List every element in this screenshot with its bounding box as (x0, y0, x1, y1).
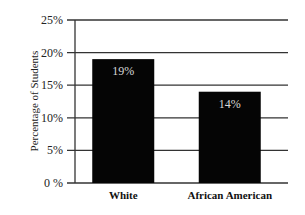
data-label: 19% (112, 64, 134, 78)
y-tick-label: 5% (47, 143, 63, 157)
y-tick-label: 20% (41, 46, 63, 60)
bar-chart: 19%14% 0 %5%10%15%20%25% WhiteAfrican Am… (0, 0, 305, 215)
y-tick-label: 0 % (44, 176, 63, 190)
y-axis-title: Percentage of Students (28, 51, 40, 152)
bars: 19%14% (92, 59, 261, 183)
x-category-labels: WhiteAfrican American (109, 189, 272, 201)
y-tick-labels: 0 %5%10%15%20%25% (41, 13, 63, 190)
x-category-label: African American (187, 189, 272, 201)
x-category-label: White (109, 189, 138, 201)
y-tick-label: 10% (41, 111, 63, 125)
data-label: 14% (219, 97, 241, 111)
y-tick-label: 15% (41, 78, 63, 92)
y-tick-label: 25% (41, 13, 63, 27)
